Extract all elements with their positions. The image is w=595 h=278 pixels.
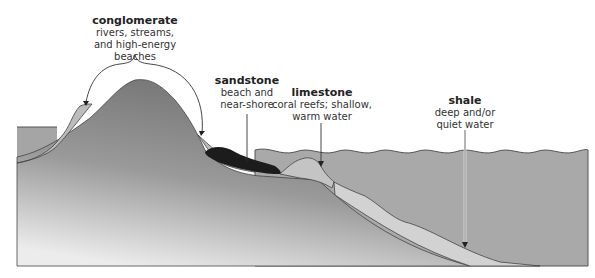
- label-limestone: limestone coral reefs; shallow, warm wat…: [272, 86, 372, 123]
- label-conglomerate: conglomerate rivers, streams, and high-e…: [80, 14, 190, 63]
- label-line: coral reefs; shallow,: [272, 99, 372, 111]
- label-line: deep and/or: [432, 107, 498, 119]
- label-title: limestone: [272, 86, 372, 99]
- label-title: shale: [432, 94, 498, 107]
- label-shale: shale deep and/or quiet water: [432, 94, 498, 131]
- label-line: warm water: [272, 111, 372, 123]
- label-line: rivers, streams,: [80, 27, 190, 39]
- conglomerate-arrow-right-icon: [199, 131, 205, 136]
- label-line: and high-energy beaches: [80, 39, 190, 63]
- label-title: conglomerate: [80, 14, 190, 27]
- label-line: quiet water: [432, 119, 498, 131]
